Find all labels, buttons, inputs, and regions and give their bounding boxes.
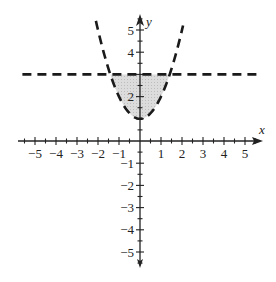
y-axis-label: y xyxy=(144,14,152,29)
y-tick-label: −2 xyxy=(120,178,134,193)
y-tick-label: −1 xyxy=(120,156,134,171)
y-tick-label: −5 xyxy=(120,245,134,260)
y-tick-label: 2 xyxy=(128,89,135,104)
x-tick-label: −2 xyxy=(91,146,105,161)
x-tick-label: −5 xyxy=(28,146,42,161)
x-tick-label: −3 xyxy=(70,146,84,161)
x-tick-label: 5 xyxy=(242,146,249,161)
y-tick-label: 4 xyxy=(128,45,135,60)
x-tick-label: 3 xyxy=(200,146,207,161)
x-tick-label: 4 xyxy=(221,146,228,161)
y-tick-label: −3 xyxy=(120,200,134,215)
y-tick-label: 5 xyxy=(128,23,135,38)
x-tick-label: 1 xyxy=(158,146,165,161)
x-tick-label: −4 xyxy=(49,146,63,161)
y-tick-label: −4 xyxy=(120,222,134,237)
x-tick-label: 2 xyxy=(179,146,186,161)
coordinate-graph: x y −5−4−3−2−112345−5−4−3−2−1245 xyxy=(0,0,276,282)
x-axis-label: x xyxy=(258,122,265,137)
